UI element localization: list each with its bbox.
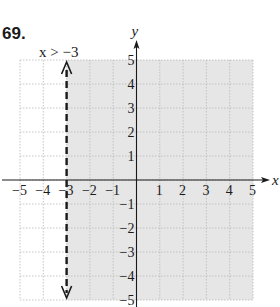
x-tick-label: −4 — [35, 183, 50, 198]
x-tick-label: −5 — [12, 183, 27, 198]
x-axis-label: x — [271, 172, 279, 188]
x-tick-label: −1 — [105, 183, 120, 198]
inequality-plot: xy−5−4−3−2−11234554321−1−2−3−4−5 — [0, 0, 280, 307]
x-tick-label: 5 — [249, 183, 256, 198]
x-tick-label: 1 — [156, 183, 163, 198]
y-tick-label: 4 — [128, 77, 135, 92]
y-tick-label: −2 — [120, 221, 135, 236]
y-tick-label: 2 — [128, 125, 135, 140]
y-tick-label: −3 — [120, 245, 135, 260]
y-tick-label: 5 — [128, 53, 135, 68]
y-axis-label: y — [130, 23, 139, 39]
y-tick-label: −5 — [120, 293, 135, 307]
x-tick-label: −2 — [82, 183, 97, 198]
x-tick-label: 4 — [226, 183, 233, 198]
y-tick-label: 1 — [128, 149, 135, 164]
y-tick-label: −4 — [120, 269, 135, 284]
x-tick-label: 3 — [202, 183, 209, 198]
y-tick-label: 3 — [128, 101, 135, 116]
y-tick-label: −1 — [120, 197, 135, 212]
x-tick-label: 2 — [179, 183, 186, 198]
